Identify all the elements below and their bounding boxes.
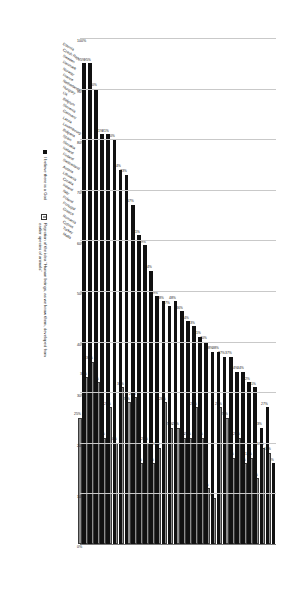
axis-tick-label: 60% bbox=[77, 242, 84, 246]
axis-tick-label: 80% bbox=[77, 141, 84, 145]
bar-god bbox=[260, 428, 264, 544]
bar-god bbox=[82, 63, 86, 544]
bar-god bbox=[106, 134, 110, 544]
bar-god bbox=[235, 372, 239, 544]
bar-god bbox=[100, 134, 104, 544]
axis-tick-label: 0% bbox=[77, 545, 82, 549]
axis-tick-label: 40% bbox=[77, 343, 84, 347]
gridline bbox=[80, 89, 276, 90]
axis-tick-label: 30% bbox=[77, 394, 84, 398]
bar-god bbox=[88, 63, 92, 544]
gridline bbox=[80, 392, 276, 393]
bar-god bbox=[125, 175, 129, 544]
gridline bbox=[80, 544, 276, 545]
gridline bbox=[80, 190, 276, 191]
axis-tick-label: 70% bbox=[77, 191, 84, 195]
bar-god bbox=[94, 89, 98, 544]
axis-tick-label: 10% bbox=[77, 495, 84, 499]
legend-item-evolution-rejection: Rejection of the idea "Human beings, as … bbox=[38, 214, 49, 364]
plot-area: 16%18%27%19%23%13%31%17%32%16%34%21%34%1… bbox=[80, 38, 276, 544]
gridline bbox=[80, 240, 276, 241]
gridline bbox=[80, 38, 276, 39]
bar-god bbox=[223, 357, 227, 544]
bar-god bbox=[247, 382, 251, 544]
bar-god bbox=[272, 463, 276, 544]
chart-legend: I believe there is a God Rejection of th… bbox=[38, 150, 49, 364]
axis-tick-label: 20% bbox=[77, 444, 84, 448]
axis-tick-label: 100% bbox=[77, 39, 86, 43]
bar-god bbox=[198, 337, 202, 544]
legend-label-evolution-rejection: Rejection of the idea "Human beings, as … bbox=[38, 223, 49, 364]
legend-swatch-evolution-icon bbox=[42, 214, 48, 220]
bar-god bbox=[186, 321, 190, 544]
bar-god bbox=[211, 352, 215, 544]
bar-god bbox=[155, 296, 159, 544]
bar-god bbox=[253, 387, 257, 544]
axis-tick-label: 50% bbox=[77, 292, 84, 296]
gridline bbox=[80, 493, 276, 494]
gridline bbox=[80, 342, 276, 343]
bar-god bbox=[266, 407, 270, 544]
legend-label-god: I believe there is a God bbox=[43, 157, 48, 200]
bar-god bbox=[192, 326, 196, 544]
chart-figure: 16%18%27%19%23%13%31%17%32%16%34%21%34%1… bbox=[0, 0, 284, 591]
legend-item-god: I believe there is a God bbox=[43, 150, 48, 200]
bar-god bbox=[180, 311, 184, 544]
gridline bbox=[80, 139, 276, 140]
bar-god bbox=[217, 352, 221, 544]
bar-god bbox=[149, 271, 153, 544]
legend-swatch-god-icon bbox=[44, 150, 48, 154]
bar-god bbox=[229, 357, 233, 544]
bar-evolution-rejection bbox=[78, 418, 81, 545]
bar-god bbox=[174, 301, 178, 544]
bar-god bbox=[137, 235, 141, 544]
gridline bbox=[80, 443, 276, 444]
bar-god bbox=[162, 301, 166, 544]
bar-god bbox=[241, 372, 245, 544]
bar-god bbox=[119, 170, 123, 544]
gridline bbox=[80, 291, 276, 292]
